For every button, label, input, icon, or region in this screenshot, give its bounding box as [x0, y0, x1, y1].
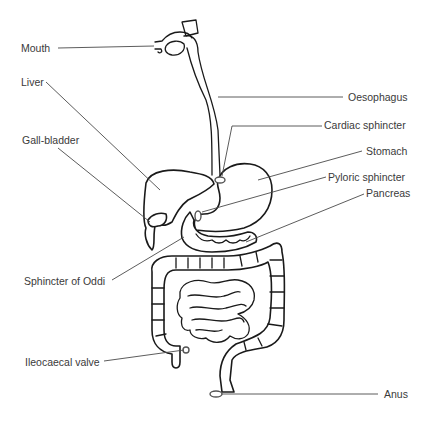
label-stomach: Stomach — [366, 145, 407, 157]
label-pancreas: Pancreas — [366, 187, 410, 199]
label-oesophagus: Oesophagus — [348, 91, 408, 103]
anus-ring — [210, 391, 222, 397]
label-sphincter-of-oddi: Sphincter of Oddi — [24, 275, 105, 287]
stomach-shape — [194, 164, 272, 232]
leader-mouth — [58, 46, 154, 48]
label-cardiac-sphincter: Cardiac sphincter — [324, 119, 406, 131]
small-intestine-folds — [188, 291, 246, 331]
label-gall-bladder: Gall-bladder — [22, 134, 79, 146]
oesophagus-inner-wall — [187, 48, 212, 175]
label-ileocaecal-valve: Ileocaecal valve — [25, 356, 100, 368]
label-mouth: Mouth — [21, 42, 50, 54]
pyloric-sphincter-ring — [195, 211, 201, 221]
cardiac-sphincter-ring — [215, 177, 225, 183]
label-pyloric-sphincter: Pyloric sphincter — [328, 171, 405, 183]
tongue-shape — [165, 41, 184, 55]
label-liver: Liver — [21, 76, 44, 88]
nasal-cavity-shape — [182, 20, 198, 36]
digestive-system-diagram: Mouth Liver Gall-bladder Sphincter of Od… — [0, 0, 429, 422]
small-intestine-shape — [177, 280, 254, 343]
leader-gall-bladder — [58, 148, 150, 222]
label-anus: Anus — [384, 388, 408, 400]
colon-shape — [152, 243, 285, 392]
